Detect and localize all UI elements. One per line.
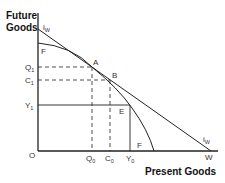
point-b-label: B: [112, 71, 117, 80]
world-interest-rate-line: [38, 29, 211, 151]
origin-label: O: [29, 151, 35, 160]
x-axis-title: Present Goods: [145, 166, 217, 177]
y-axis-title-line1: Future: [6, 10, 38, 21]
y-axis-title-line2: Goods: [6, 22, 38, 33]
iw-label-bottom: iW: [203, 135, 211, 145]
point-e-label: E: [119, 107, 124, 116]
iw-label-top: iW: [43, 23, 51, 33]
x-tick-y0: Y0: [126, 154, 134, 164]
point-a-label: A: [93, 58, 99, 67]
y-tick-q1: Q1: [25, 63, 34, 73]
x-tick-c0: C0: [105, 154, 114, 164]
ppf-label-top: F: [41, 47, 46, 56]
ppf-label-bottom: F: [137, 141, 142, 150]
intertemporal-trade-diagram: Future Goods Present Goods O iW iW F F A…: [0, 0, 225, 183]
y-tick-y1: Y1: [25, 101, 33, 111]
y-tick-c1: C1: [25, 76, 34, 86]
point-w-label: W: [205, 153, 213, 162]
x-tick-q0: Q0: [86, 154, 95, 164]
